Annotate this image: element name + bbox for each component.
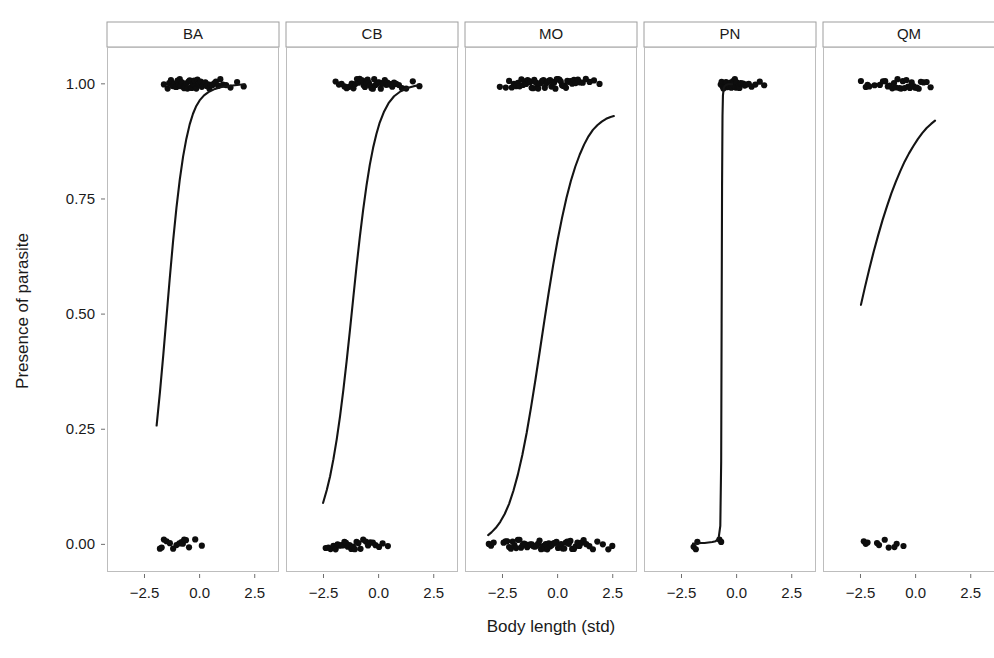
data-point [504,538,510,544]
panel-background-PN [644,47,816,572]
facet-panel-BA: BA−2.50.02.5 [107,22,279,601]
panel-background-QM [823,47,994,572]
data-point [761,82,767,88]
data-point [385,543,391,549]
facet-panel-CB: CB−2.50.02.5 [286,22,458,601]
data-point [199,543,205,549]
data-point [886,544,892,550]
x-tick-label: 0.0 [905,584,926,601]
panel-background-BA [107,47,279,572]
x-tick-label: 2.5 [781,584,802,601]
x-tick-label: −2.5 [309,584,339,601]
facet-strip-label-BA: BA [183,25,203,42]
data-point [186,544,192,550]
x-tick-label: 0.0 [547,584,568,601]
data-point [535,86,541,92]
data-point [379,540,385,546]
data-point [590,546,596,552]
data-point [600,541,606,547]
y-tick-label: 0.75 [66,190,95,207]
data-point [159,544,165,550]
x-tick-label: 0.0 [189,584,210,601]
x-tick-label: −2.5 [130,584,160,601]
faceted-logistic-plot: Presence of parasite Body length (std) 0… [0,0,994,658]
data-point [894,76,900,82]
data-point [536,538,542,544]
data-point [866,83,872,89]
facet-panel-MO: MO−2.50.02.5 [465,22,637,601]
data-point [872,82,878,88]
data-point [882,78,888,84]
x-tick-label: 0.0 [726,584,747,601]
x-tick-label: 2.5 [602,584,623,601]
facet-strip-label-QM: QM [897,25,921,42]
data-point [183,537,189,543]
x-tick-label: 2.5 [244,584,265,601]
y-tick-label: 0.50 [66,305,95,322]
data-point [924,79,930,85]
x-tick-label: 2.5 [960,584,981,601]
data-point [561,545,567,551]
x-tick-label: 2.5 [423,584,444,601]
y-tick-label: 0.25 [66,420,95,437]
data-point [594,538,600,544]
facet-strip-label-CB: CB [362,25,383,42]
data-point [352,546,358,552]
data-point [217,76,223,82]
chart-figure: Presence of parasite Body length (std) 0… [0,0,994,658]
data-point [894,541,900,547]
data-point [903,77,909,83]
data-point [609,543,615,549]
data-point [491,539,497,545]
data-point [864,539,870,545]
data-point [876,542,882,548]
x-tick-label: 0.0 [368,584,389,601]
data-point [596,81,602,87]
facet-panel-PN: PN−2.50.02.5 [644,22,816,601]
x-axis-title: Body length (std) [487,617,616,636]
facet-strip-label-MO: MO [539,25,563,42]
facet-panel-QM: QM−2.50.02.5 [823,22,994,601]
data-point [693,546,699,552]
panel-background-MO [465,47,637,572]
data-point [928,84,934,90]
facet-panels: BA−2.50.02.5CB−2.50.02.5MO−2.50.02.5PN−2… [107,22,994,601]
x-tick-label: −2.5 [488,584,518,601]
data-point [552,86,558,92]
data-point [167,540,173,546]
data-point [591,77,597,83]
panel-background-CB [286,47,458,572]
data-point [567,538,573,544]
data-point [563,85,569,91]
x-tick-label: −2.5 [667,584,697,601]
data-point [357,546,363,552]
data-point [497,84,503,90]
data-point [882,537,888,543]
data-point [192,536,198,542]
x-tick-label: −2.5 [846,584,876,601]
facet-strip-label-PN: PN [720,25,741,42]
data-point [916,86,922,92]
y-tick-label: 0.00 [66,535,95,552]
y-tick-label: 1.00 [66,75,95,92]
y-axis-title: Presence of parasite [13,233,32,389]
data-point [410,78,416,84]
data-point [900,543,906,549]
data-point [378,86,384,92]
data-point [858,78,864,84]
data-point [503,84,509,90]
